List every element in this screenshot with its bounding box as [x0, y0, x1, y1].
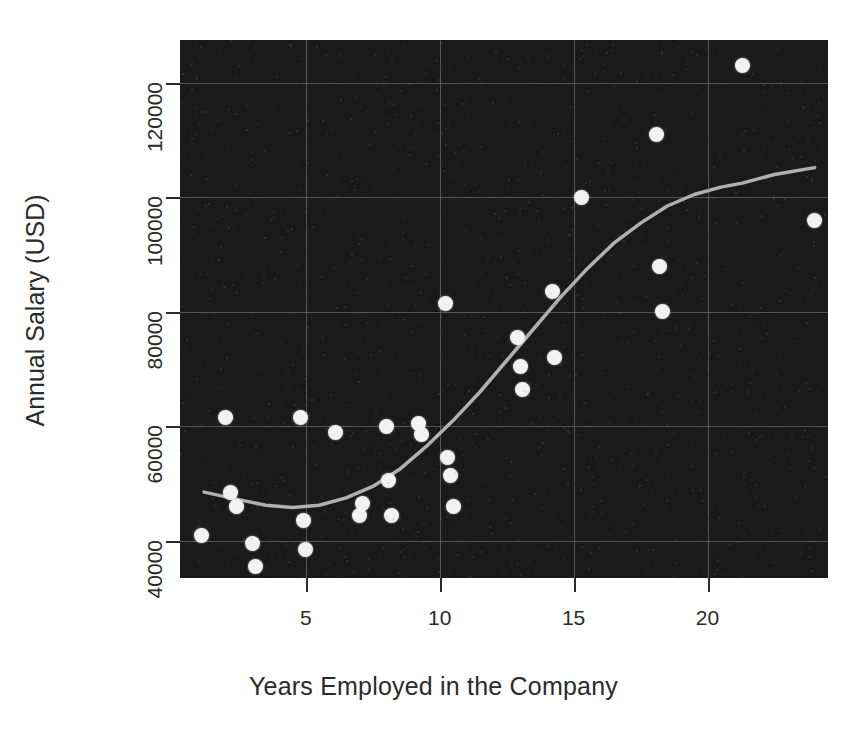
y-axis-label-container: Annual Salary (USD) — [0, 0, 70, 620]
y-tick-mark — [166, 83, 180, 85]
data-point — [513, 359, 528, 374]
data-point — [223, 485, 238, 500]
data-point — [652, 259, 667, 274]
x-tick-mark — [574, 578, 576, 592]
data-point — [229, 499, 244, 514]
y-tick-mark — [166, 312, 180, 314]
data-point — [328, 425, 343, 440]
data-point — [510, 330, 525, 345]
data-point — [574, 190, 589, 205]
data-point — [384, 508, 399, 523]
data-point — [296, 513, 311, 528]
data-point — [414, 427, 429, 442]
chart-page: Annual Salary (USD) 40000600008000010000… — [0, 0, 867, 730]
y-tick-label: 120000 — [143, 82, 167, 237]
data-point — [655, 304, 670, 319]
data-point — [807, 213, 822, 228]
x-tick-label: 10 — [400, 606, 480, 630]
x-tick-label: 15 — [534, 606, 614, 630]
scatter-plot-figure: Annual Salary (USD) 40000600008000010000… — [0, 0, 867, 730]
data-point — [355, 496, 370, 511]
x-tick-mark — [306, 578, 308, 592]
data-point — [438, 296, 453, 311]
data-point — [446, 499, 461, 514]
data-point — [443, 468, 458, 483]
y-tick-mark — [166, 426, 180, 428]
x-axis-label: Years Employed in the Company — [0, 672, 867, 701]
y-axis-label: Annual Salary (USD) — [21, 194, 50, 426]
plot-area — [180, 40, 828, 578]
x-tick-label: 5 — [266, 606, 346, 630]
y-tick-mark — [166, 197, 180, 199]
data-point — [735, 58, 750, 73]
data-point — [194, 528, 209, 543]
data-point — [515, 382, 530, 397]
trend-line — [180, 40, 828, 578]
y-tick-mark — [166, 541, 180, 543]
x-tick-mark — [440, 578, 442, 592]
x-tick-label: 20 — [668, 606, 748, 630]
data-point — [649, 127, 664, 142]
data-point — [379, 419, 394, 434]
x-tick-mark — [708, 578, 710, 592]
data-point — [545, 284, 560, 299]
data-point — [245, 536, 260, 551]
data-point — [248, 559, 263, 574]
